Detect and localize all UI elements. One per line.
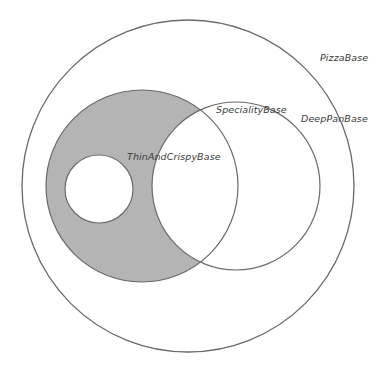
pizza-base-label: PizzaBase (320, 52, 368, 63)
thin-and-crispy-base-label: ThinAndCrispyBase (127, 151, 221, 162)
inner-circle (65, 155, 133, 223)
speciality-base-label: SpecialityBase (216, 104, 287, 115)
deep-pan-base-label: DeepPanBase (301, 113, 368, 124)
